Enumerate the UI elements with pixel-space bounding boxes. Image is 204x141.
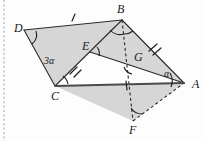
tick-CE-2 xyxy=(74,70,81,77)
vertex-label-D: D xyxy=(13,21,23,35)
tick-BA-1 xyxy=(149,44,157,51)
geometry-figure: D B C A E G F 3α α xyxy=(0,0,204,141)
vertex-label-E: E xyxy=(81,39,90,53)
figure-canvas: D B C A E G F 3α α xyxy=(0,0,204,141)
region-CFA-shading xyxy=(55,83,184,121)
tick-BA-2 xyxy=(153,48,161,55)
vertex-label-F: F xyxy=(128,123,137,137)
vertex-label-G: G xyxy=(134,50,143,64)
vertex-label-C: C xyxy=(51,89,60,103)
tick-DB-1 xyxy=(72,14,75,21)
vertex-label-B: B xyxy=(117,2,125,16)
angle-label-3alpha: 3α xyxy=(43,55,55,66)
vertex-label-A: A xyxy=(191,77,200,91)
angle-label-alpha: α xyxy=(164,68,170,79)
arc-at-C xyxy=(63,76,68,84)
